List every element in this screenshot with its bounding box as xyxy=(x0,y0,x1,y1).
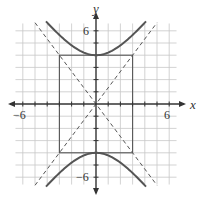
hyperbola-graph: x y −6 6 6 −6 xyxy=(0,0,201,199)
x-max-label: 6 xyxy=(164,108,170,122)
x-axis-right-arrow-icon xyxy=(179,101,186,107)
x-axis-label: x xyxy=(189,97,196,112)
y-min-label: −6 xyxy=(76,170,89,184)
x-min-label: −6 xyxy=(13,108,26,122)
y-axis-down-arrow-icon xyxy=(93,188,99,195)
x-axis-left-arrow-icon xyxy=(8,101,15,107)
y-max-label: 6 xyxy=(83,24,89,38)
y-axis-label: y xyxy=(91,1,99,16)
